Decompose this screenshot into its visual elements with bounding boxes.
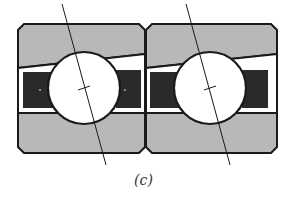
bearing-diagram [0,0,287,201]
right-bearing [146,4,277,165]
left-bearing [18,4,145,165]
figure-caption: (c) [0,172,287,188]
